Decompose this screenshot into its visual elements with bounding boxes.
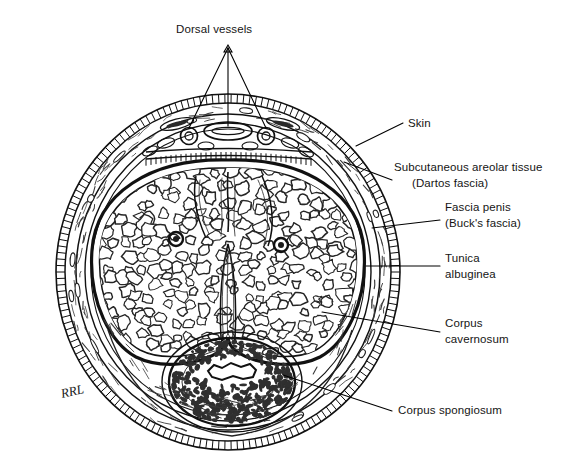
artist-signature: RRL <box>58 381 85 401</box>
dorsal-bundle-hatching <box>146 149 312 166</box>
cross-section-illustration: RRL Dorsal vessels Skin Subc <box>0 0 567 474</box>
leader-subcutaneous <box>344 162 392 180</box>
label-skin: Skin <box>408 117 431 129</box>
anatomical-figure: RRL Dorsal vessels Skin Subc <box>0 0 567 474</box>
signature-text: RRL <box>58 381 85 401</box>
label-corpus-spongiosum: Corpus spongiosum <box>398 404 502 416</box>
label-dorsal-vessels: Dorsal vessels <box>176 23 252 35</box>
label-subcutaneous-line2: (Dartos fascia) <box>412 177 488 189</box>
label-corpus-cavernosum-line1: Corpus <box>445 317 483 329</box>
leader-bucks-fascia <box>372 220 440 228</box>
label-subcutaneous-line1: Subcutaneous areolar tissue <box>394 161 542 173</box>
label-fascia-penis-line1: Fascia penis <box>445 201 511 213</box>
label-tunica-line1: Tunica <box>445 252 480 264</box>
leader-lines <box>189 45 440 411</box>
leader-corpus-spongiosum <box>283 375 392 411</box>
leader-dorsal-artery-right <box>228 48 266 128</box>
superficial-vessels <box>159 115 300 133</box>
label-corpus-cavernosum-line2: cavernosum <box>445 333 509 345</box>
leader-skin <box>356 123 403 146</box>
dorsal-artery-left <box>181 128 198 145</box>
label-fascia-penis-line2: (Buck's fascia) <box>445 217 521 229</box>
label-tunica-line2: albuginea <box>445 268 496 280</box>
urethra <box>208 363 256 380</box>
